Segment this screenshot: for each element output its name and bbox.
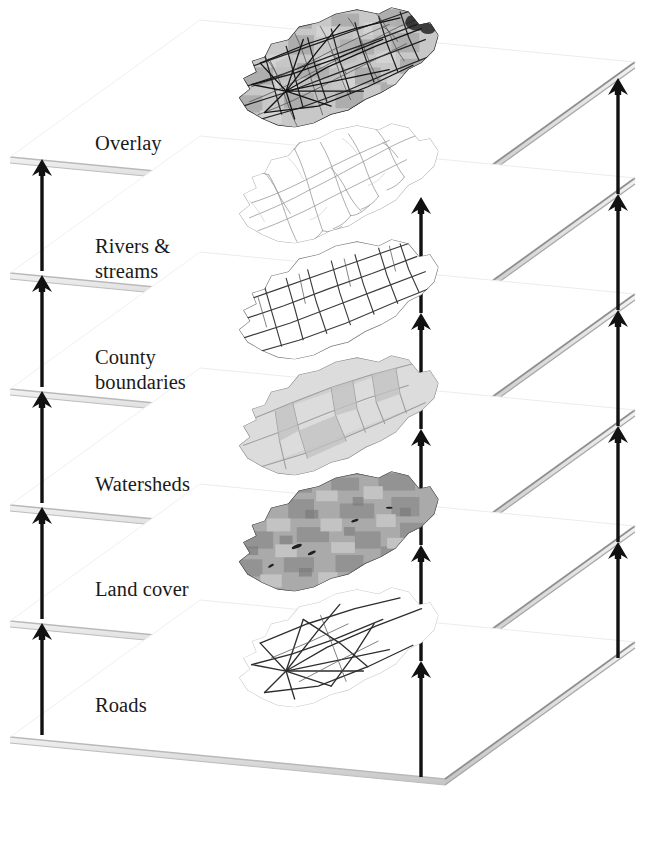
layer-label-composite: Overlay: [95, 131, 162, 156]
layer-label-watersheds: Watersheds: [95, 472, 190, 497]
layer-stack-diagram: OverlayRivers & streamsCounty boundaries…: [0, 0, 669, 850]
diagram-canvas: [0, 0, 669, 850]
layer-label-roads: Roads: [95, 693, 147, 718]
layer-label-counties: County boundaries: [95, 345, 186, 395]
layer-label-streams: Rivers & streams: [95, 234, 170, 284]
layer-label-landcover: Land cover: [95, 577, 189, 602]
